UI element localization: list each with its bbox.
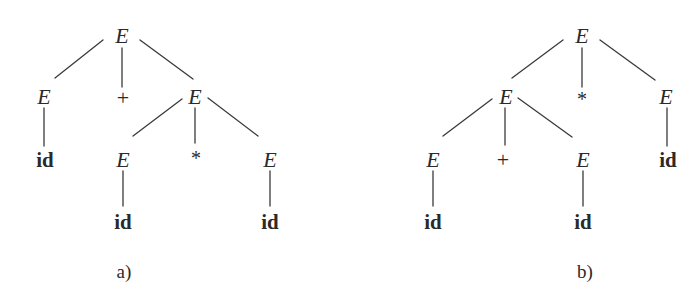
tree-b-right-expr-node: E: [659, 86, 672, 108]
tree-a-edge: [208, 98, 258, 136]
tree-a-edge: [55, 40, 103, 78]
tree-b-right-id-leaf: id: [659, 150, 677, 171]
tree-a-mult-left-expr-node: E: [116, 149, 129, 171]
tree-a-root-node: E: [115, 25, 128, 47]
tree-a-plus-operator: +: [117, 87, 129, 109]
parse-tree-figure: E E + E id E * E id id a) E E * E E + E …: [0, 0, 700, 300]
tree-a-left-expr-node: E: [37, 86, 50, 108]
tree-b-edge: [443, 99, 492, 136]
tree-a-edge: [133, 99, 182, 136]
tree-a-mult-right-expr-node: E: [263, 149, 276, 171]
tree-edges: [0, 0, 700, 300]
tree-b-left-expr-node: E: [499, 86, 512, 108]
tree-b-add-right-id-leaf: id: [574, 212, 592, 233]
tree-a-edge: [140, 40, 193, 79]
tree-a-star-operator: *: [191, 148, 201, 168]
tree-b-caption: b): [577, 262, 593, 281]
tree-a-caption: a): [117, 262, 132, 281]
tree-a-left-id-leaf: id: [36, 150, 54, 171]
tree-b-edge: [512, 40, 563, 78]
tree-b-add-left-expr-node: E: [426, 149, 439, 171]
tree-b-root-node: E: [575, 25, 588, 47]
tree-b-plus-operator: +: [497, 149, 509, 171]
tree-a-mult-right-id-leaf: id: [261, 212, 279, 233]
tree-b-edge: [518, 98, 572, 137]
tree-a-right-expr-node: E: [188, 86, 201, 108]
tree-b-add-left-id-leaf: id: [424, 212, 442, 233]
tree-b-add-right-expr-node: E: [576, 149, 589, 171]
tree-b-edge: [600, 40, 655, 80]
tree-a-mult-left-id-leaf: id: [114, 212, 132, 233]
tree-b-star-operator: *: [577, 89, 587, 109]
